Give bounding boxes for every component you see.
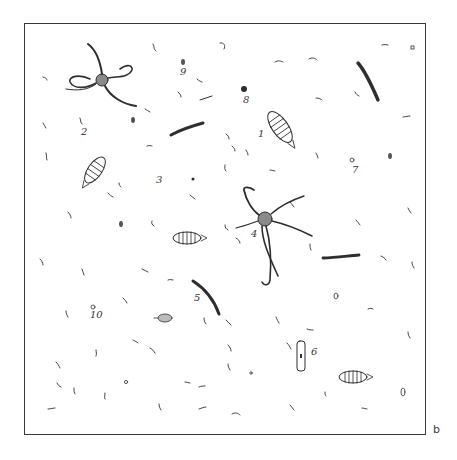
flagellate-icons	[40, 43, 414, 415]
label-7: 7	[352, 164, 359, 175]
label-1: 1	[258, 128, 264, 139]
ring-icon	[250, 372, 252, 374]
label-3: 3	[156, 174, 162, 185]
ring-icon	[124, 380, 127, 383]
panel-label: b	[433, 423, 440, 436]
segmented-larva-icon	[77, 154, 110, 192]
tube-cell-icon	[297, 341, 305, 371]
label-6: 6	[311, 346, 318, 357]
brittle-star-icon	[66, 44, 136, 106]
seed-icon	[388, 153, 392, 159]
square-particle-icon	[411, 46, 414, 49]
label-5: 5	[194, 292, 200, 303]
dark-dot-icon	[241, 86, 247, 92]
seed-icon	[119, 221, 123, 227]
segmented-larva-icon	[339, 371, 373, 383]
label-4: 4	[250, 228, 257, 239]
label-9: 9	[180, 66, 187, 77]
segmented-larva-icon	[173, 232, 207, 244]
label-2: 2	[80, 126, 87, 137]
segmented-larva-small-icon	[154, 314, 172, 322]
segmented-larva-icon	[263, 108, 301, 153]
seed-icon	[131, 117, 135, 123]
ring-icon	[350, 158, 354, 162]
spine-icon	[171, 123, 203, 135]
spine-icon	[358, 63, 378, 100]
seed-icon	[334, 293, 338, 299]
plankton-illustration: 1 2 3 4 5 6 7 8 9 10 b	[0, 0, 457, 460]
seed-icon	[401, 388, 405, 396]
rod-icon	[200, 96, 212, 100]
label-8: 8	[243, 94, 249, 105]
seed-icon	[181, 59, 185, 65]
specimen-drawing: 1 2 3 4 5 6 7 8 9 10	[0, 0, 457, 460]
spine-icon	[323, 255, 359, 258]
label-10: 10	[90, 309, 103, 320]
dark-dot-icon	[192, 178, 195, 181]
brittle-star-icon	[236, 187, 312, 284]
